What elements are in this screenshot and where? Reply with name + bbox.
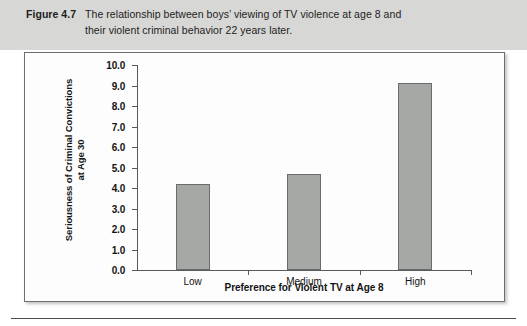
bar-high: [398, 83, 432, 270]
y-axis-tick-label: 2.0: [112, 224, 125, 235]
y-axis-tick-label: 9.0: [112, 80, 125, 91]
y-axis-title: Seriousness of Criminal Convictions at A…: [63, 55, 107, 265]
y-axis-tick: 3.0: [132, 209, 137, 210]
y-axis-tick-label: 4.0: [112, 183, 125, 194]
y-axis-title-line-2: at Age 30: [75, 55, 87, 265]
y-axis-tick-label: 5.0: [112, 162, 125, 173]
x-axis-title: Preference for Violent TV at Age 8: [137, 282, 471, 293]
y-axis-tick: 10.0: [132, 65, 137, 66]
y-axis-tick: 2.0: [132, 229, 137, 230]
y-axis-tick-label: 10.0: [106, 60, 125, 71]
figure-caption-line-1: Figure 4.7The relationship between boys’…: [26, 7, 493, 23]
y-axis-tick: 8.0: [132, 106, 137, 107]
x-axis-tick: [360, 270, 361, 275]
bottom-divider: [11, 318, 516, 319]
y-axis-tick-label: 7.0: [112, 121, 125, 132]
y-axis-tick-label: 6.0: [112, 142, 125, 153]
y-axis-tick-label: 8.0: [112, 101, 125, 112]
y-axis-tick-label: 1.0: [112, 244, 125, 255]
bar-low: [176, 184, 210, 270]
y-axis-line: [137, 65, 138, 270]
figure-caption-line-2: their violent criminal behavior 22 years…: [26, 23, 493, 39]
figure-caption-text-1: The relationship between boys’ viewing o…: [85, 8, 401, 20]
y-axis-tick: 0.0: [132, 270, 137, 271]
y-axis-tick: 7.0: [132, 127, 137, 128]
x-axis-tick: [248, 270, 249, 275]
y-axis-tick-label: 0.0: [112, 265, 125, 276]
y-axis-tick: 4.0: [132, 188, 137, 189]
x-axis-tick: [471, 270, 472, 275]
figure-number: Figure 4.7: [26, 8, 76, 20]
bar-medium: [287, 174, 321, 270]
figure-container: Figure 4.7The relationship between boys’…: [0, 0, 527, 326]
y-axis-tick: 1.0: [132, 250, 137, 251]
x-axis-line: [137, 270, 471, 271]
chart-panel: Seriousness of Criminal Convictions at A…: [24, 52, 505, 302]
y-axis-title-line-1: Seriousness of Criminal Convictions: [63, 55, 75, 265]
y-axis-tick: 5.0: [132, 168, 137, 169]
figure-caption: Figure 4.7The relationship between boys’…: [26, 7, 493, 38]
plot-area: 0.01.02.03.04.05.06.07.08.09.010.0 LowMe…: [137, 65, 471, 270]
y-axis-tick: 6.0: [132, 147, 137, 148]
figure-caption-band: Figure 4.7The relationship between boys’…: [0, 0, 527, 50]
y-axis-tick: 9.0: [132, 86, 137, 87]
y-axis-tick-label: 3.0: [112, 203, 125, 214]
